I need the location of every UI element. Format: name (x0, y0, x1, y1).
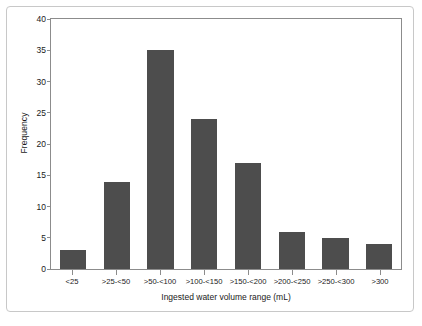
x-tick-label: >150-<200 (230, 277, 267, 286)
y-tick-label: 5 (41, 233, 46, 243)
bar (279, 232, 305, 270)
x-tick-label: >100-<150 (186, 277, 223, 286)
x-tick-label: >50-<100 (144, 277, 177, 286)
x-tick-mark (116, 270, 117, 275)
bar (235, 163, 261, 269)
x-tick-mark (160, 270, 161, 275)
x-tick-mark (248, 270, 249, 275)
bar-slot (314, 19, 358, 269)
bar-slot (270, 19, 314, 269)
x-tick-mark (336, 270, 337, 275)
x-tick-label: >200-<250 (274, 277, 311, 286)
x-tick-label: <25 (66, 277, 79, 286)
y-tick-label: 30 (37, 77, 46, 87)
bar-slot (95, 19, 139, 269)
x-tick-mark (204, 270, 205, 275)
y-tick-label: 20 (37, 139, 46, 149)
x-tick-mark (292, 270, 293, 275)
bar (147, 50, 173, 269)
y-tick-label: 40 (37, 14, 46, 24)
x-axis-title: Ingested water volume range (mL) (50, 292, 402, 302)
y-tick-label: 0 (41, 264, 46, 274)
y-tick-label: 25 (37, 108, 46, 118)
y-tick-label: 35 (37, 45, 46, 55)
y-tick-label: 15 (37, 170, 46, 180)
x-tick-label: >250-<300 (318, 277, 355, 286)
bar-slot (226, 19, 270, 269)
x-tick-mark (380, 270, 381, 275)
bar (366, 244, 392, 269)
bar (191, 119, 217, 269)
x-tick-mark (72, 270, 73, 275)
bar-slot (182, 19, 226, 269)
plot-area: 0510152025303540 (50, 18, 402, 270)
bar-slot (139, 19, 183, 269)
y-tick-label: 10 (37, 202, 46, 212)
x-tick-label: >25-<50 (102, 277, 130, 286)
bar (104, 182, 130, 270)
bar-slot (51, 19, 95, 269)
x-tick-label: >300 (371, 277, 388, 286)
bar-slot (357, 19, 401, 269)
y-axis-title: Frequency (19, 93, 29, 173)
bar-series (51, 19, 401, 269)
bar (322, 238, 348, 269)
figure: Frequency 0510152025303540 <25>25-<50>50… (0, 0, 422, 326)
bar (60, 250, 86, 269)
